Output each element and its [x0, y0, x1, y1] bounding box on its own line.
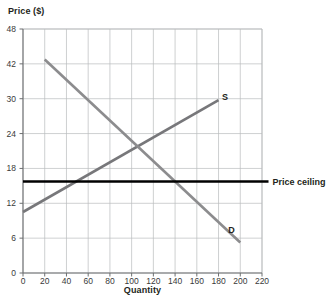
price-ceiling-label: Price ceiling [273, 177, 326, 187]
y-tick-label: 30 [0, 94, 16, 104]
y-tick-label: 42 [0, 59, 16, 69]
y-tick-label: 24 [0, 129, 16, 139]
y-tick-label: 12 [0, 198, 16, 208]
y-tick-label: 18 [0, 163, 16, 173]
x-axis-title: Quantity [0, 285, 285, 295]
series-label-d: D [228, 225, 235, 235]
y-tick-label: 6 [0, 233, 16, 243]
y-tick-label: 0 [0, 268, 16, 278]
y-tick-label: 48 [0, 24, 16, 34]
series-label-s: S [222, 92, 228, 102]
series-line-d [45, 60, 241, 243]
